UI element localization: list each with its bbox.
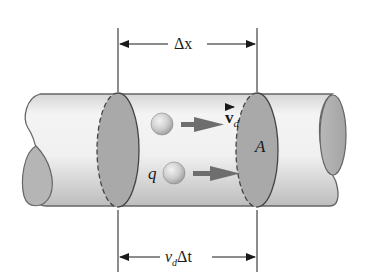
label-drift-velocity: vd [225, 109, 239, 129]
right-end-cap [320, 95, 346, 175]
dt-text: Δt [177, 248, 192, 265]
label-charge-q: q [148, 165, 157, 182]
velocity-sub-text: d [234, 117, 240, 129]
charge-carrier-upper [151, 113, 173, 135]
left-cross-section [97, 93, 139, 207]
label-area-a: A [255, 138, 265, 155]
delta-x-text: Δx [174, 35, 192, 52]
label-vd-delta-t: vdΔt [163, 249, 194, 268]
charge-carrier-lower [163, 162, 185, 184]
velocity-v-text: v [225, 108, 234, 127]
label-delta-x: Δx [172, 36, 194, 52]
charge-text: q [148, 164, 157, 183]
conductor-tube [23, 94, 347, 206]
area-text: A [255, 137, 265, 156]
diagram-canvas: Δx vdΔt vd q A [0, 0, 366, 276]
